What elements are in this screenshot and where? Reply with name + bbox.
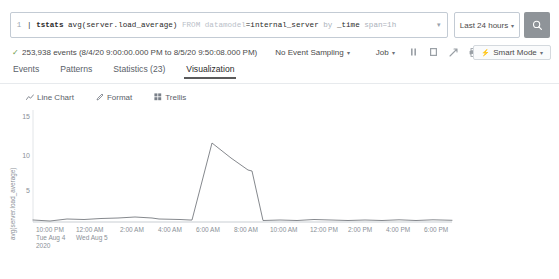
search-input[interactable]: 1 | tstats avg(server.load_average) FROM… [10, 12, 448, 38]
chart-type-button[interactable]: Line Chart [26, 93, 74, 102]
series-line-avg-server-load-average [33, 143, 452, 221]
share-icon[interactable] [449, 48, 458, 57]
x-tick-1-sub: Wed Aug 5 [76, 234, 108, 241]
y-axis-title: avg(server.load_average) [9, 168, 16, 240]
x-tick-9: 4:00 PM [386, 226, 410, 233]
trellis-button[interactable]: Trellis [154, 93, 186, 102]
visualization-toolbar: Line Chart Format Trellis [0, 88, 559, 106]
trellis-label: Trellis [165, 93, 186, 102]
format-label: Format [107, 93, 132, 102]
x-tick-2: 2:00 AM [120, 226, 144, 233]
line-chart: avg(server.load_average) 15 10 5 10:00 P… [0, 108, 559, 279]
y-tick-10: 10 [10, 152, 30, 159]
check-icon: ✓ [12, 48, 19, 57]
format-button[interactable]: Format [96, 93, 132, 102]
time-range-picker[interactable]: Last 24 hours ▾ [454, 12, 520, 38]
x-tick-6: 10:00 AM [270, 226, 297, 233]
event-sampling-dropdown[interactable]: No Event Sampling▾ [275, 48, 349, 57]
x-tick-0-sub: Tue Aug 4 [36, 234, 65, 241]
x-tick-0-sub2: 2020 [36, 242, 50, 249]
grid-icon [154, 93, 162, 101]
tab-visualization[interactable]: Visualization [186, 64, 234, 79]
event-sampling-label: No Event Sampling [275, 48, 343, 57]
tab-events[interactable]: Events [13, 64, 39, 79]
job-status-row: ✓ 253,938 events (8/4/20 9:00:00.000 PM … [0, 44, 559, 60]
search-button[interactable] [524, 12, 550, 38]
time-range-label: Last 24 hours [460, 21, 508, 30]
chart-plot-area [0, 108, 559, 279]
tab-patterns[interactable]: Patterns [60, 64, 92, 79]
y-tick-5: 5 [10, 187, 30, 194]
result-tabs: Events Patterns Statistics (23) Visualiz… [0, 64, 559, 84]
x-tick-7: 12:00 PM [310, 226, 338, 233]
chevron-down-icon[interactable]: ▾ [431, 21, 447, 29]
bolt-icon: ⚡ [481, 49, 490, 57]
splunk-search-page: 1 | tstats avg(server.load_average) FROM… [0, 0, 559, 279]
search-mode-dropdown[interactable]: ⚡ Smart Mode ▾ [473, 45, 551, 60]
chevron-down-icon: ▾ [540, 49, 543, 56]
x-tick-10: 6:00 PM [424, 226, 448, 233]
x-tick-0: 10:00 PM [36, 226, 64, 233]
job-label: Job [376, 48, 389, 57]
line-chart-icon [26, 94, 34, 101]
search-icon [532, 20, 543, 31]
tab-divider [0, 83, 559, 84]
x-tick-3: 4:00 AM [158, 226, 182, 233]
chart-type-label: Line Chart [37, 93, 74, 102]
x-tick-1: 12:00 AM [76, 226, 103, 233]
tab-statistics[interactable]: Statistics (23) [113, 64, 165, 79]
pause-icon[interactable] [409, 48, 418, 57]
job-dropdown[interactable]: Job▾ [376, 48, 395, 57]
x-tick-4: 6:00 AM [196, 226, 220, 233]
x-tick-8: 2:00 PM [348, 226, 372, 233]
search-row: 1 | tstats avg(server.load_average) FROM… [0, 12, 559, 40]
chevron-down-icon: ▾ [347, 50, 350, 56]
search-query-text: | tstats avg(server.load_average) FROM d… [27, 19, 431, 31]
stop-icon[interactable] [429, 48, 438, 57]
search-mode-label: Smart Mode [493, 48, 537, 57]
y-tick-15: 15 [10, 113, 30, 120]
search-line-number: 1 [11, 21, 27, 29]
chevron-down-icon: ▾ [511, 22, 514, 29]
chevron-down-icon: ▾ [392, 50, 395, 56]
event-count-label: 253,938 events (8/4/20 9:00:00.000 PM to… [22, 48, 257, 57]
x-tick-5: 8:00 AM [234, 226, 258, 233]
pencil-icon [96, 93, 104, 101]
